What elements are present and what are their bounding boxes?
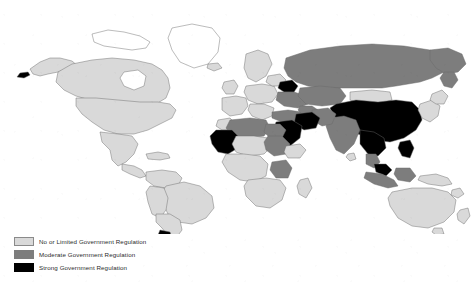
region-west-central-africa (222, 154, 268, 182)
legend-swatch-strong (14, 263, 34, 272)
legend-label-no-or-limited: No or Limited Government Regulation (39, 237, 146, 246)
region-kamchatka (440, 72, 458, 88)
region-iceland (207, 63, 222, 71)
region-indonesia-sumatra (364, 172, 398, 188)
region-new-zealand (457, 208, 470, 224)
region-pacific-islands (451, 188, 464, 198)
legend-swatch-moderate (14, 250, 34, 259)
region-japan-islands (430, 90, 448, 104)
region-british-isles (222, 80, 238, 94)
region-united-states (76, 98, 176, 134)
region-central-europe (244, 84, 278, 104)
region-madagascar (297, 178, 312, 198)
region-philippines (398, 140, 414, 158)
legend-label-strong: Strong Government Regulation (39, 263, 127, 272)
region-russia (284, 44, 450, 88)
legend-label-moderate: Moderate Government Regulation (39, 250, 135, 259)
region-italy-balkans (248, 104, 274, 120)
legend-item-strong: Strong Government Regulation (14, 261, 244, 273)
region-australia (388, 188, 456, 228)
region-mexico (100, 132, 138, 166)
region-sri-lanka (346, 153, 356, 161)
region-tasmania (432, 228, 444, 234)
legend-item-no-or-limited: No or Limited Government Regulation (14, 235, 244, 247)
region-tanzania (270, 160, 292, 178)
world-map (0, 6, 471, 234)
region-caribbean (146, 152, 170, 160)
region-kazakhstan (298, 86, 346, 106)
legend-swatch-no-or-limited (14, 237, 34, 246)
region-horn-of-africa (284, 144, 306, 158)
region-central-america (122, 164, 146, 178)
region-greenland (168, 24, 220, 68)
region-canada (56, 58, 170, 106)
region-belarus (278, 80, 298, 92)
region-canada-arctic (92, 30, 150, 50)
region-alaska-islands (17, 72, 30, 78)
region-southern-africa (244, 178, 286, 208)
map-area (0, 6, 471, 234)
region-indonesia-borneo (394, 168, 416, 182)
map-legend: No or Limited Government Regulation Mode… (14, 235, 244, 274)
legend-item-moderate: Moderate Government Regulation (14, 248, 244, 260)
region-new-guinea (418, 174, 452, 186)
region-iberia-france (222, 96, 248, 116)
region-peru-bolivia (146, 186, 168, 218)
